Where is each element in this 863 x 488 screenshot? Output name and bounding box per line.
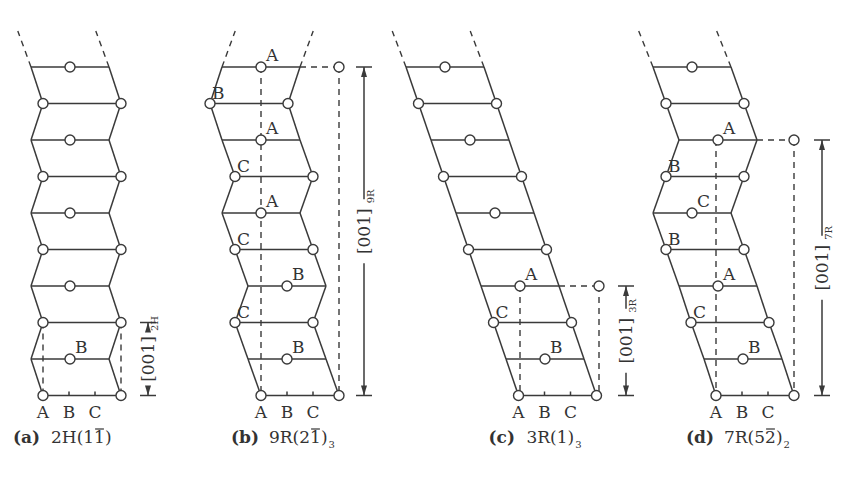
atom-circle: [739, 172, 749, 182]
panel-caption: (a)2H(11): [13, 427, 112, 447]
atom-circle: [492, 99, 502, 109]
atom-circle: [256, 135, 266, 145]
continuation-left: [392, 31, 406, 67]
left-edge: [31, 140, 43, 177]
stacking-diagram-figure: BABC[001]2H(a)2H(11)ABACACBCBABC[001]9R(…: [0, 0, 863, 488]
right-edge: [109, 213, 121, 250]
right-edge: [109, 250, 121, 287]
panel-caption: (b)9R(21)3: [231, 427, 335, 450]
atom-circle: [540, 354, 550, 364]
atom-circle: [789, 391, 799, 401]
panel-d: ABCBACBABC[001]7R(d)7R(52)2: [639, 31, 834, 450]
layer-label: A: [722, 264, 736, 284]
right-edge: [313, 286, 326, 323]
continuation-right: [470, 31, 484, 67]
continuation-right: [300, 31, 313, 67]
layer-label: B: [668, 229, 681, 249]
right-edge: [731, 177, 744, 214]
caption-bar-digit: 2: [765, 427, 776, 447]
atom-circle: [116, 99, 126, 109]
right-edge: [534, 213, 547, 250]
figure-canvas: BABC[001]2H(a)2H(11)ABACACBCBABC[001]9R(…: [0, 0, 863, 488]
atom-circle: [711, 391, 721, 401]
left-edge: [494, 323, 507, 360]
atom-circle: [464, 245, 474, 255]
caption-letter: (d): [686, 427, 714, 447]
left-edge: [235, 250, 248, 287]
right-edge: [313, 323, 326, 360]
atom-circle: [38, 391, 48, 401]
atom-circle: [515, 281, 525, 291]
atom-circle: [256, 208, 266, 218]
layer-label: A: [265, 191, 279, 211]
atom-circle: [65, 135, 75, 145]
caption-close: ): [321, 427, 328, 447]
left-edge: [31, 250, 43, 287]
atom-circle: [542, 245, 552, 255]
atom-circle: [116, 245, 126, 255]
right-edge: [313, 250, 326, 287]
right-edge: [109, 140, 121, 177]
left-edge: [31, 359, 43, 396]
position-label: C: [564, 402, 577, 422]
layer-label: B: [212, 83, 225, 103]
layer-label: C: [237, 229, 250, 249]
position-label: B: [736, 402, 749, 422]
left-edge: [666, 104, 679, 141]
left-edge: [31, 67, 43, 104]
continuation-left: [18, 31, 31, 67]
panel-a: BABC[001]2H(a)2H(11): [13, 31, 160, 447]
right-edge: [522, 177, 535, 214]
atom-circle: [308, 318, 318, 328]
layer-label: B: [668, 156, 681, 176]
caption-close: ): [105, 427, 112, 447]
right-edge: [769, 323, 782, 360]
layer-label: A: [265, 45, 279, 65]
panel-caption: (d)7R(52)2: [686, 427, 790, 450]
dimension-label: [001]: [616, 318, 636, 364]
dimension-label-group: [001]7R: [812, 225, 834, 290]
right-edge: [109, 359, 121, 396]
right-edge: [109, 177, 121, 214]
caption-subscript: 3: [575, 439, 581, 450]
left-edge: [31, 177, 43, 214]
atom-circle: [514, 391, 524, 401]
caption-letter: (a): [13, 427, 40, 447]
caption-letter: (b): [231, 427, 259, 447]
left-edge: [666, 250, 679, 287]
dimension-label-group: [001]9R: [354, 189, 376, 254]
left-edge: [506, 359, 519, 396]
layer-label: C: [697, 191, 710, 211]
caption-subscript: 3: [329, 439, 335, 450]
dimension-label-group: [001]3R: [616, 298, 638, 363]
arrowhead-down-icon: [145, 386, 151, 396]
atom-circle: [308, 245, 318, 255]
layer-label: B: [748, 337, 761, 357]
right-edge: [300, 213, 313, 250]
position-label: A: [36, 402, 50, 422]
atom-circle: [38, 172, 48, 182]
atom-circle: [592, 391, 602, 401]
right-edge: [782, 359, 794, 396]
atom-circle: [282, 281, 292, 291]
position-label: B: [63, 402, 76, 422]
atom-circle: [65, 281, 75, 291]
dimension-label-group: [001]2H: [138, 316, 160, 382]
layer-label: B: [75, 337, 88, 357]
atom-circle: [517, 172, 527, 182]
arrowhead-up-icon: [361, 67, 367, 77]
arrowhead-down-icon: [623, 386, 629, 396]
left-edge: [691, 323, 704, 360]
left-edge: [222, 177, 235, 214]
atom-circle: [567, 318, 577, 328]
dimension-subscript: 9R: [365, 189, 376, 203]
right-edge: [497, 104, 510, 141]
right-edge: [288, 104, 300, 141]
left-edge: [653, 177, 666, 214]
caption-bar-digit: 1: [310, 427, 321, 447]
atom-circle: [439, 172, 449, 182]
right-edge: [572, 323, 585, 360]
atom-circle: [65, 354, 75, 364]
right-edge: [731, 67, 744, 104]
left-edge: [248, 359, 261, 396]
